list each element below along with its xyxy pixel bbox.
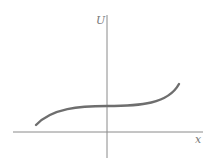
potential-energy-diagram: U x bbox=[0, 0, 218, 165]
u-axis-label: U bbox=[96, 14, 106, 27]
x-axis-label: x bbox=[195, 133, 202, 146]
